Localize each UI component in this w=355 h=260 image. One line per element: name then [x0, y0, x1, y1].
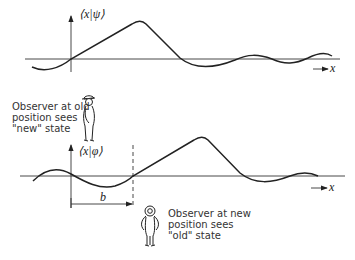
bottom-plot-ylabel: ⟨x|φ⟩: [78, 144, 103, 159]
observer-new-caption: Observer at new position sees "old" stat…: [168, 208, 251, 241]
observer-new-line-2: position sees: [168, 219, 251, 230]
observer-new-line-1: Observer at new: [168, 208, 251, 219]
bottom-plot-xlabel: x: [329, 180, 334, 195]
bottom-plot: [20, 137, 345, 208]
top-plot: [25, 16, 340, 72]
observer-old-line-3: "new" state: [12, 123, 90, 134]
shift-label: b: [100, 190, 106, 205]
observer-old-line-2: position sees: [12, 112, 90, 123]
observer-new-line-3: "old" state: [168, 230, 251, 241]
observer-old-caption: Observer at old position sees "new" stat…: [12, 101, 90, 134]
top-wavefunction-curve: [32, 21, 332, 70]
observer-new-figure: [142, 206, 159, 246]
bottom-wavefunction-curve: [33, 137, 318, 187]
observer-old-line-1: Observer at old: [12, 101, 90, 112]
top-plot-xlabel: x: [330, 61, 335, 76]
top-plot-ylabel: ⟨x|ψ⟩: [79, 7, 105, 22]
